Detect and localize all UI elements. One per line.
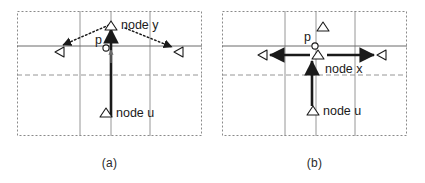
- triangle-left-marker-right: [174, 47, 183, 57]
- dotted-arrow-y-to-left: [63, 25, 109, 45]
- triangle-left-marker-left: [258, 50, 267, 60]
- label-p: p: [95, 33, 102, 47]
- panel-a: node y node u p: [17, 11, 202, 136]
- circle-point-marker-p: [312, 43, 318, 49]
- figure-container: node y node u p: [0, 0, 425, 183]
- circle-point-marker-p: [103, 45, 109, 51]
- caption-panel-b: (b): [222, 156, 407, 170]
- triangle-left-marker-right: [377, 50, 386, 60]
- caption-panel-a: (a): [17, 156, 202, 170]
- triangle-left-marker-left: [55, 47, 64, 57]
- label-node-x: node x: [325, 62, 363, 76]
- triangle-up-marker-node-x: [312, 50, 324, 59]
- panel-b: node x node u p: [222, 11, 407, 136]
- label-node-u: node u: [116, 106, 154, 120]
- label-p: p: [304, 30, 311, 44]
- label-node-y: node y: [121, 18, 159, 32]
- label-node-u: node u: [323, 104, 361, 118]
- triangle-up-marker-node-u: [307, 106, 319, 115]
- triangle-up-marker-top: [317, 22, 329, 31]
- panel-border: [223, 12, 407, 136]
